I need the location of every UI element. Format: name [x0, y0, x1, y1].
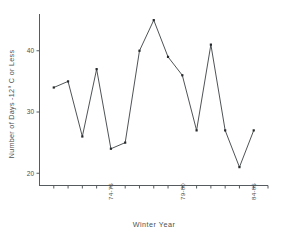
data-point-83-84	[238, 166, 240, 168]
chart-canvas: 203040 74-7579-8084-85 Winter Year Numbe…	[0, 0, 283, 238]
line-chart: 203040 74-7579-8084-85 Winter Year Numbe…	[0, 0, 283, 238]
x-tick-label-74-75: 74-75	[107, 183, 114, 200]
data-point-78-79	[167, 56, 169, 58]
x-tick-label-84-85: 84-85	[250, 183, 257, 200]
data-point-81-82	[210, 44, 212, 46]
x-axis-title: Winter Year	[133, 220, 176, 229]
data-point-70-71	[53, 86, 55, 88]
y-tick-label-30: 30	[27, 108, 35, 115]
data-point-77-78	[153, 19, 155, 21]
data-point-76-77	[138, 50, 140, 52]
data-point-82-83	[224, 129, 226, 131]
data-point-73-74	[96, 68, 98, 70]
x-tick-label-79-80: 79-80	[179, 183, 186, 200]
data-point-71-72	[67, 80, 69, 82]
y-tick-label-20: 20	[27, 170, 35, 177]
data-point-74-75	[110, 148, 112, 150]
data-point-84-85	[253, 129, 255, 131]
data-point-79-80	[181, 74, 183, 76]
data-point-80-81	[195, 129, 197, 131]
chart-background	[0, 0, 283, 238]
data-point-72-73	[81, 135, 83, 137]
data-point-75-76	[124, 142, 126, 144]
y-axis-title: Number of Days -12° C or Less	[7, 50, 16, 159]
y-tick-label-40: 40	[27, 47, 35, 54]
